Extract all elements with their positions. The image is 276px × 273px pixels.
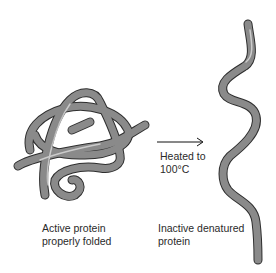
folded-protein-icon [18, 93, 145, 197]
folded-caption-line2: properly folded [42, 235, 111, 248]
denatured-protein-caption: Inactive denatured protein [158, 222, 244, 248]
arrow-label-line1: Heated to [160, 150, 206, 163]
arrow-right-icon [157, 138, 203, 146]
denatured-caption-line2: protein [158, 235, 244, 248]
folded-protein-caption: Active protein properly folded [42, 222, 111, 248]
denatured-caption-line1: Inactive denatured [158, 222, 244, 235]
arrow-label: Heated to 100°C [160, 150, 206, 176]
folded-caption-line1: Active protein [42, 222, 111, 235]
arrow-label-line2: 100°C [160, 163, 206, 176]
